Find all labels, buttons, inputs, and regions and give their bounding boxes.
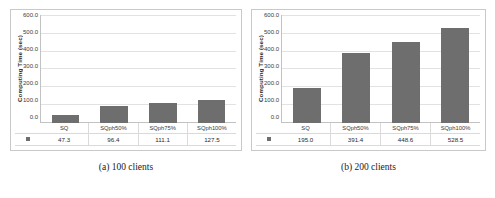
category-label: SQph75%	[138, 123, 187, 133]
y-tick-label: 400.0	[264, 46, 279, 52]
value-label: 47.3	[40, 134, 88, 145]
chart-panel-a: Computing Time (sec) 600.0 500.0 400.0 3…	[10, 9, 242, 172]
y-tick-label: 300.0	[23, 63, 38, 69]
data-table-a: SQ SQph50% SQph75% SQph100% 47.3 96.4 11…	[15, 123, 236, 146]
bar-slot	[431, 15, 481, 123]
y-tick-label: 500.0	[23, 29, 38, 35]
bar[interactable]	[293, 88, 321, 123]
y-tick-label: 400.0	[23, 46, 38, 52]
y-axis-ticks-b: 600.0 500.0 400.0 300.0 200.0 100.0 0.0	[264, 15, 281, 123]
y-tick-label: 100.0	[23, 97, 38, 103]
y-tick-label: 200.0	[23, 80, 38, 86]
y-tick-label: 0.0	[271, 114, 279, 120]
y-axis-title: Computing Time (sec)	[15, 15, 23, 123]
y-tick-label: 100.0	[264, 97, 279, 103]
y-tick-label: 600.0	[264, 12, 279, 18]
y-tick-label: 300.0	[264, 63, 279, 69]
y-axis-title: Computing Time (sec)	[256, 15, 264, 123]
value-label: 448.6	[380, 134, 430, 145]
data-table-body-a: SQ SQph50% SQph75% SQph100% 47.3 96.4 11…	[40, 123, 236, 146]
data-table-key-column-a	[15, 123, 40, 146]
bar-slot	[282, 15, 332, 123]
bar-slot	[90, 15, 139, 123]
category-row: SQ SQph50% SQph75% SQph100%	[40, 123, 236, 133]
category-label: SQph100%	[187, 123, 236, 133]
y-tick-label: 600.0	[23, 12, 38, 18]
bar[interactable]	[149, 103, 176, 123]
bar-slot	[41, 15, 90, 123]
plot-area-a	[40, 15, 236, 123]
data-table-key-column-b	[256, 123, 281, 146]
value-label: 528.5	[430, 134, 480, 145]
value-label: 195.0	[281, 134, 330, 145]
y-tick-label: 500.0	[264, 29, 279, 35]
key-blank	[15, 123, 40, 133]
category-label: SQph50%	[88, 123, 137, 133]
bar[interactable]	[100, 106, 127, 123]
bar[interactable]	[52, 115, 79, 124]
y-axis-ticks-a: 600.0 500.0 400.0 300.0 200.0 100.0 0.0	[23, 15, 40, 123]
legend-key-cell	[15, 133, 40, 146]
category-label: SQph75%	[380, 123, 430, 133]
bar-slot	[332, 15, 382, 123]
y-tick-label: 0.0	[30, 114, 38, 120]
category-label: SQ	[40, 123, 88, 133]
data-table-body-b: SQ SQph50% SQph75% SQph100% 195.0 391.4 …	[281, 123, 480, 146]
panel-caption: (b) 200 clients	[341, 162, 396, 172]
value-label: 391.4	[330, 134, 380, 145]
bar-slot	[381, 15, 431, 123]
value-row: 47.3 96.4 111.1 127.5	[40, 133, 236, 146]
bar[interactable]	[198, 100, 225, 123]
plot-area-b	[281, 15, 480, 123]
bar[interactable]	[342, 53, 370, 123]
panel-caption: (a) 100 clients	[99, 162, 153, 172]
plot-region-b: Computing Time (sec) 600.0 500.0 400.0 3…	[256, 15, 480, 123]
key-blank	[256, 123, 281, 133]
value-label: 127.5	[187, 134, 236, 145]
legend-key-cell	[256, 133, 281, 146]
bars-b	[282, 15, 480, 123]
data-table-b: SQ SQph50% SQph75% SQph100% 195.0 391.4 …	[256, 123, 480, 146]
square-marker-icon	[267, 137, 271, 141]
square-marker-icon	[26, 137, 30, 141]
bar-slot	[139, 15, 188, 123]
chart-frame-b: Computing Time (sec) 600.0 500.0 400.0 3…	[251, 9, 486, 151]
plot-region-a: Computing Time (sec) 600.0 500.0 400.0 3…	[15, 15, 236, 123]
figure-container: Computing Time (sec) 600.0 500.0 400.0 3…	[0, 0, 495, 198]
value-label: 96.4	[88, 134, 137, 145]
value-row: 195.0 391.4 448.6 528.5	[281, 133, 480, 146]
value-label: 111.1	[138, 134, 187, 145]
category-label: SQph50%	[330, 123, 380, 133]
category-label: SQ	[281, 123, 330, 133]
chart-panel-b: Computing Time (sec) 600.0 500.0 400.0 3…	[251, 9, 486, 172]
bar[interactable]	[392, 42, 420, 123]
category-label: SQph100%	[430, 123, 480, 133]
chart-frame-a: Computing Time (sec) 600.0 500.0 400.0 3…	[10, 9, 242, 151]
bar-slot	[187, 15, 236, 123]
category-row: SQ SQph50% SQph75% SQph100%	[281, 123, 480, 133]
bar[interactable]	[441, 28, 469, 123]
bars-a	[41, 15, 236, 123]
y-tick-label: 200.0	[264, 80, 279, 86]
